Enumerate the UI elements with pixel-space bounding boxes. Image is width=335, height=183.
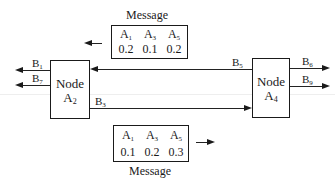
link-b6-label: B6	[302, 55, 313, 71]
bottom-message-value-a5: 0.3	[164, 146, 188, 159]
node-a2-name: A2	[51, 91, 89, 109]
node-a2: Node A2	[50, 60, 90, 119]
bottom-message-value-a1: 0.1	[116, 146, 140, 159]
bottom-message-box: A1 A3 A5 0.1 0.2 0.3	[113, 125, 189, 162]
node-a4-title: Node	[253, 75, 289, 89]
bottom-message-value-a3: 0.2	[140, 146, 164, 159]
link-b3-label: B3	[95, 95, 106, 111]
node-a4: Node A4	[252, 58, 290, 118]
bottom-message-header-a5: A5	[164, 129, 188, 146]
link-b9-label: B9	[302, 73, 313, 89]
link-b5-label: B5	[232, 56, 243, 72]
link-b1-label: B1	[32, 57, 43, 73]
top-message-label: Message	[126, 9, 168, 22]
bottom-message-label: Message	[129, 165, 171, 178]
node-a2-title: Node	[51, 77, 89, 91]
bottom-message-header-a3: A3	[140, 129, 164, 146]
top-message-value-a5: 0.2	[162, 43, 186, 56]
link-b7-label: B7	[32, 72, 43, 88]
top-message-value-a1: 0.2	[114, 43, 138, 56]
top-message-value-a3: 0.1	[138, 43, 162, 56]
bottom-message-header-a1: A1	[116, 129, 140, 146]
top-message-box: A1 A3 A5 0.2 0.1 0.2	[111, 25, 188, 59]
node-a4-name: A4	[253, 89, 289, 107]
